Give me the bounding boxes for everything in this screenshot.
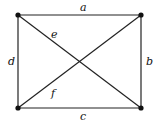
vertex-v2 <box>138 12 143 17</box>
edge-label-d: d <box>8 55 15 68</box>
vertex-v3 <box>138 105 143 110</box>
edge-label-e: e <box>51 28 58 41</box>
edge-label-f: f <box>50 87 57 100</box>
vertex-v1 <box>15 12 20 17</box>
graph-canvas: abcdef <box>0 0 159 124</box>
edge-label-b: b <box>146 55 153 68</box>
graph-diagram: abcdef <box>0 0 159 124</box>
edge-label-c: c <box>80 110 86 123</box>
vertex-v4 <box>15 105 20 110</box>
edge-label-a: a <box>80 1 87 14</box>
